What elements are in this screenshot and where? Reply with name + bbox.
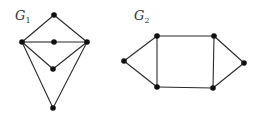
g2-edge-left-top_left <box>124 36 157 61</box>
g2-node-right <box>241 60 247 66</box>
g1-label-subscript: 1 <box>25 16 30 25</box>
g1-edge-top-right <box>54 15 87 42</box>
g1-edge-left-bottom <box>22 42 53 108</box>
g2-edges <box>124 36 244 88</box>
g1-node-top <box>51 12 57 18</box>
g2-node-left <box>121 58 127 64</box>
g2-node-bottom_left <box>154 84 160 90</box>
g1-edge-left-mid_lower <box>22 42 53 69</box>
g1-edge-right-bottom <box>53 42 87 108</box>
g1-node-left <box>19 39 25 45</box>
g1-edge-right-mid_lower <box>53 42 87 69</box>
g2-node-bottom_right <box>210 85 216 91</box>
g2-edge-bottom_left-bottom_right <box>157 87 213 88</box>
g2-edge-top_right-right <box>214 36 244 63</box>
g1-node-mid_lower <box>50 66 56 72</box>
g1-node-bottom <box>50 105 56 111</box>
g2-label-subscript: 2 <box>144 16 149 25</box>
g1-node-right <box>84 39 90 45</box>
g2-node-top_right <box>211 33 217 39</box>
g2-label: G2 <box>134 8 149 25</box>
g2-edge-top_right-bottom_right <box>213 36 214 88</box>
g1-nodes <box>19 12 90 111</box>
g1-node-center <box>51 39 57 45</box>
g2-edge-left-bottom_left <box>124 61 157 87</box>
graph-diagram: G1 G2 <box>0 0 260 114</box>
graph-g1: G1 <box>15 8 90 111</box>
g2-label-main: G <box>134 8 144 23</box>
g2-node-top_left <box>154 33 160 39</box>
g1-edges <box>22 15 87 108</box>
g2-nodes <box>121 33 247 91</box>
graph-g2: G2 <box>121 8 247 91</box>
g1-label: G1 <box>15 8 30 25</box>
g1-label-main: G <box>15 8 25 23</box>
g2-edge-bottom_right-right <box>213 63 244 88</box>
